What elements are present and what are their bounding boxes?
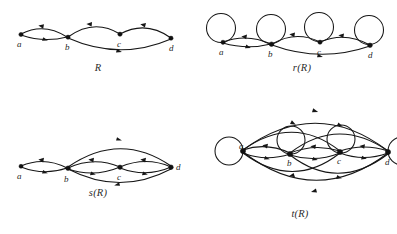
vertex-label-d: d [368,50,373,60]
vertex-label-d: d [169,43,174,53]
vertex-b [66,35,70,39]
graph-tR: a b c d [198,104,397,204]
loop-a [207,14,236,43]
panel-transitive-closure: a b c d [198,104,397,204]
vertex-label-c: c [317,47,321,57]
vertex-label-a: a [219,47,224,57]
vertex-label-c: c [117,39,121,49]
vertex-label-a: a [17,39,22,49]
edge-c-to-b [290,153,340,159]
vertex-d [169,36,173,40]
arrowhead-b-to-a [42,37,48,41]
figure-root: a b c d R [0,0,397,234]
vertex-d [368,43,373,48]
edge-c-to-d [120,162,171,168]
arrowhead-a-to-b [38,24,44,29]
arrowhead-a-to-d-top [312,108,318,112]
caption-rR: r(R) [242,62,362,73]
graph-rR: a b c d [205,2,391,64]
edge-a-to-b [21,161,67,168]
loop-c [305,13,334,42]
vertex-label-b: b [64,174,69,184]
caption-tR: t(R) [240,208,360,219]
arrowhead-b-to-d-high [116,137,122,140]
vertex-label-b: b [268,49,273,59]
vertex-c [337,149,342,154]
arrowhead-a-to-b [262,144,268,149]
arrowhead-c-to-d [359,144,365,149]
vertex-c [118,165,122,169]
edge-b-to-d [272,45,370,54]
arrowhead-b-to-c [310,144,316,149]
vertex-a [19,32,23,36]
vertex-b [287,151,292,156]
vertex-c [118,32,122,36]
vertex-d [385,149,390,154]
vertex-d [169,165,174,170]
edge-c-to-b [68,167,120,173]
arrowhead-d-to-a-bottom [311,189,317,193]
vertex-label-c: c [117,172,121,182]
edge-b-to-c [68,162,120,168]
graph-sR: a b c d [8,126,190,188]
vertex-a [221,40,225,44]
vertex-a [19,164,23,168]
panel-relation-R: a b c d [8,14,190,60]
edge-b-to-d-high [68,149,171,167]
vertex-label-b: b [65,42,70,52]
edge-d-to-c [120,167,171,173]
arrowhead-a-to-c [290,120,296,125]
vertex-label-d: d [385,157,390,167]
vertex-label-a: a [239,141,244,151]
graph-R: a b c d [8,14,190,60]
caption-sR: s(R) [38,187,158,198]
vertex-label-a: a [17,171,22,181]
arrowhead-b-to-c [86,22,92,27]
vertex-c [318,40,322,44]
vertex-label-c: c [337,156,341,166]
arrowhead-c-to-d [140,23,146,28]
vertex-label-b: b [287,158,292,168]
panel-symmetric-closure: a b c d [8,126,190,188]
panel-reflexive-closure: a b c d [205,2,391,64]
vertex-b [269,42,274,47]
vertex-label-d: d [176,162,181,172]
caption-R: R [38,62,158,73]
arrowhead-d-to-c [142,172,148,176]
edge-a-to-b [21,29,67,37]
edge-c-to-d [120,28,171,38]
vertex-b [66,166,71,171]
edge-d-to-c [340,153,388,158]
edge-b-to-c [68,27,120,37]
